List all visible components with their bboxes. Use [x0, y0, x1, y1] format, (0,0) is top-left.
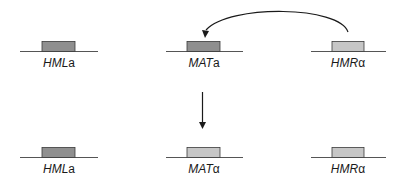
locus-hml-top	[20, 42, 98, 52]
cassette-box-alpha	[332, 42, 364, 52]
arrowhead-icon	[202, 30, 209, 38]
copy-arc-arrow	[206, 11, 348, 32]
cassette-box-a	[187, 42, 220, 52]
locus-name: MAT	[188, 162, 212, 176]
mating-type-diagram	[0, 0, 406, 187]
label-mat-top: MATa	[164, 56, 244, 70]
label-hml-bottom: HMLa	[19, 162, 99, 176]
bottom-row	[20, 148, 386, 158]
allele: a	[213, 56, 220, 70]
locus-mat-bottom	[166, 148, 243, 158]
locus-name: MAT	[188, 56, 212, 70]
locus-name: HMR	[331, 162, 358, 176]
locus-hmr-top	[311, 42, 386, 52]
allele: α	[358, 162, 365, 176]
cassette-box-a	[42, 42, 75, 52]
locus-name: HML	[43, 56, 68, 70]
cassette-box-alpha	[187, 148, 220, 158]
cassette-box-alpha	[332, 148, 364, 158]
allele: α	[358, 56, 365, 70]
locus-hmr-bottom	[311, 148, 386, 158]
top-row	[20, 42, 386, 52]
label-mat-bottom: MATα	[164, 162, 244, 176]
cassette-box-a	[42, 148, 75, 158]
allele: α	[213, 162, 220, 176]
allele: a	[68, 162, 75, 176]
locus-hml-bottom	[20, 148, 98, 158]
locus-name: HMR	[331, 56, 358, 70]
label-hmr-bottom: HMRα	[308, 162, 388, 176]
label-hml-top: HMLa	[19, 56, 99, 70]
allele: a	[68, 56, 75, 70]
label-hmr-top: HMRα	[308, 56, 388, 70]
locus-mat-top	[166, 42, 243, 52]
arrowhead-down-icon	[199, 122, 206, 129]
locus-name: HML	[43, 162, 68, 176]
